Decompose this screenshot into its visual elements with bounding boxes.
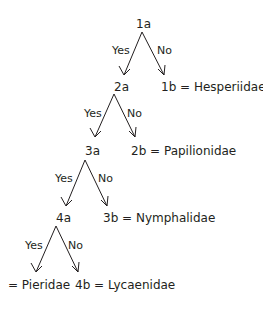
edge-label-yes-4: Yes (25, 239, 43, 252)
leaf-4b-lycaenidae: 4b = Lycaenidae (75, 278, 175, 292)
edge-label-yes-1: Yes (112, 44, 130, 57)
leaf-4c-pieridae: = Pieridae (8, 278, 70, 292)
edge-label-yes-2: Yes (84, 107, 102, 120)
edge-label-no-3: No (98, 172, 113, 185)
leaf-1b-hesperiidae: 1b = Hesperiidae (161, 80, 263, 94)
node-2a: 2a (114, 80, 129, 94)
node-4a: 4a (56, 211, 71, 225)
node-3a: 3a (85, 144, 100, 158)
edge-label-no-4: No (68, 239, 83, 252)
dichotomous-key-diagram: 1a Yes No 2a 1b = Hesperiidae Yes No 3a … (0, 0, 263, 309)
edge-label-yes-3: Yes (55, 172, 73, 185)
leaf-2b-papilionidae: 2b = Papilionidae (131, 144, 236, 158)
leaf-3b-nymphalidae: 3b = Nymphalidae (103, 211, 215, 225)
edge-label-no-2: No (127, 107, 142, 120)
node-1a: 1a (136, 17, 151, 31)
edge-label-no-1: No (157, 44, 172, 57)
